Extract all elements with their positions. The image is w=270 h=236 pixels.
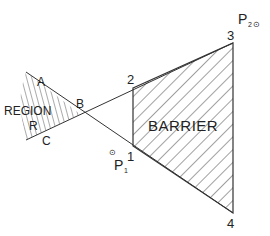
region-label: REGION bbox=[4, 104, 51, 118]
p1-label: P bbox=[114, 157, 123, 173]
vertex-1-label: 1 bbox=[127, 149, 134, 164]
point-a-label: A bbox=[37, 75, 45, 89]
vertex-3-label: 3 bbox=[227, 28, 234, 43]
point-c-label: C bbox=[42, 134, 51, 148]
point-b-label: B bbox=[76, 97, 84, 111]
shadow-region-diagram: BARRIER REGION R A B C 1 2 3 4 ⊙ P 1 P 2… bbox=[0, 0, 270, 236]
p1-symbol-icon: ⊙ bbox=[109, 148, 116, 157]
barrier-label: BARRIER bbox=[148, 117, 218, 134]
region-sublabel-r: R bbox=[29, 119, 38, 133]
p2-label: P bbox=[238, 11, 247, 27]
vertex-2-label: 2 bbox=[127, 72, 134, 87]
vertex-4-label: 4 bbox=[227, 216, 234, 231]
p2-subscript: 2 bbox=[248, 21, 252, 28]
p2-symbol-icon: ⊙ bbox=[253, 20, 260, 29]
p1-subscript: 1 bbox=[124, 167, 128, 174]
